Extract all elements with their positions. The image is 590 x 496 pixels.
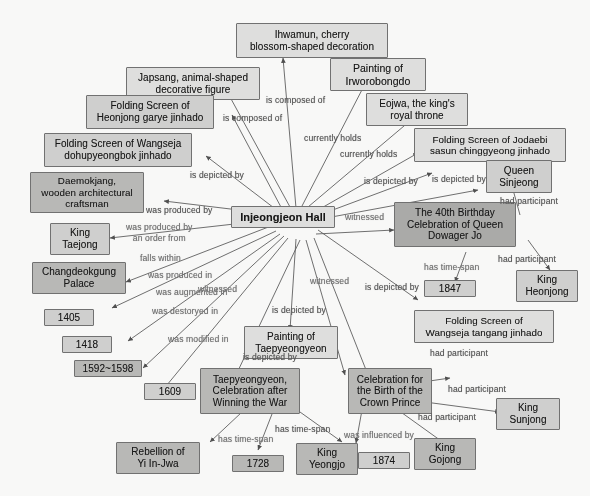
node-taepyeongyeon-celebration[interactable]: Taepyeongyeon,Celebration afterWinning t… (200, 368, 300, 414)
edge-label-witnessed-1: witnessed (198, 284, 237, 294)
node-king-yeongjo[interactable]: KingYeongjo (296, 443, 358, 475)
edge-label-has-time-span-1: has time-span (424, 262, 479, 272)
node-label: Daemokjang,wooden architecturalcraftsman (35, 175, 139, 209)
node-label: 1609 (149, 386, 191, 398)
edge-label-currently-holds-2: currently holds (340, 149, 397, 159)
edge-label-is-depicted-by-5: is depicted by (365, 282, 419, 292)
node-year-1405[interactable]: 1405 (44, 309, 94, 326)
node-label: KingSunjong (501, 402, 555, 425)
node-year-1874[interactable]: 1874 (358, 452, 410, 469)
node-rebellion-yi-in-jwa[interactable]: Rebellion ofYi In-Jwa (116, 442, 200, 474)
node-label: QueenSinjeong (491, 165, 547, 188)
edge-label-had-participant-2: had participant (498, 254, 556, 264)
node-label: Folding Screen ofWangseja tangang jinhad… (419, 315, 549, 338)
edge-label-is-depicted-by-2: is depicted by (364, 176, 418, 186)
node-year-1418[interactable]: 1418 (62, 336, 112, 353)
edge-label-currently-holds-1: currently holds (304, 133, 361, 143)
node-label: Rebellion ofYi In-Jwa (121, 446, 195, 469)
node-label: 1592~1598 (79, 363, 137, 375)
node-wangseja-dohupyeongbok-jinhado[interactable]: Folding Screen of Wangsejadohupyeongbok … (44, 133, 192, 167)
edge-label-had-participant-3: had participant (448, 384, 506, 394)
node-ihwamun[interactable]: Ihwamun, cherryblossom-shaped decoration (236, 23, 388, 58)
node-label: Ihwamun, cherryblossom-shaped decoration (241, 29, 383, 52)
node-daemokjang[interactable]: Daemokjang,wooden architecturalcraftsman (30, 172, 144, 213)
node-40th-birthday-celebration[interactable]: The 40th BirthdayCelebration of QueenDow… (394, 202, 516, 247)
node-label: The 40th BirthdayCelebration of QueenDow… (399, 207, 511, 242)
node-label: Painting ofTaepyeongyeon (249, 331, 333, 354)
edge-label-has-time-span-3: was influenced by (344, 430, 414, 440)
node-eojwa[interactable]: Eojwa, the king'sroyal throne (366, 93, 468, 126)
node-king-sunjong[interactable]: KingSunjong (496, 398, 560, 430)
node-label: Eojwa, the king'sroyal throne (371, 98, 463, 121)
node-king-gojong[interactable]: KingGojong (414, 438, 476, 470)
node-jodaebi-jinhado[interactable]: Folding Screen of Jodaebisasun chinggyeo… (414, 128, 566, 162)
edge-label-had-participant-1: had participant (500, 196, 558, 206)
node-painting-irworobongdo[interactable]: Painting ofIrworobongdo (330, 58, 426, 91)
edge-label-was-produced-by-order-from: was produced byan order from (126, 222, 192, 243)
node-label: Painting ofIrworobongdo (335, 62, 421, 86)
node-year-1609[interactable]: 1609 (144, 383, 196, 400)
edge-label-is-composed-of-1: is composed of (266, 95, 325, 105)
node-label: 1418 (67, 339, 107, 351)
edge-label-witnessed-2: witnessed (310, 276, 349, 286)
node-label: ChangdeokgungPalace (37, 266, 121, 289)
node-wangseja-tangang-jinhado[interactable]: Folding Screen ofWangseja tangang jinhad… (414, 310, 554, 343)
node-crown-prince-celebration[interactable]: Celebration forthe Birth of theCrown Pri… (348, 368, 432, 414)
node-year-1847[interactable]: 1847 (424, 280, 476, 297)
edge-label-is-depicted-by-1: is depicted by (190, 170, 244, 180)
knowledge-graph-canvas: Ihwamun, cherryblossom-shaped decoration… (0, 0, 590, 496)
node-label: KingGojong (419, 442, 471, 465)
node-label: KingYeongjo (301, 447, 353, 470)
node-label: 1405 (49, 312, 89, 324)
edge-label-falls-within: falls within (140, 253, 181, 263)
node-label: Injeongjeon Hall (236, 211, 330, 224)
edge-label-had-participant-5: has time-span (275, 424, 330, 434)
node-label: KingHeonjong (521, 274, 573, 297)
node-king-taejong[interactable]: KingTaejong (50, 223, 110, 255)
node-queen-sinjeong[interactable]: QueenSinjeong (486, 160, 552, 193)
node-label: Folding Screen of Wangsejadohupyeongbok … (49, 138, 187, 161)
edge-label-witnessed-3: witnessed (345, 212, 384, 222)
node-label: Japsang, animal-shapeddecorative figure (131, 72, 255, 95)
node-label: 1847 (429, 283, 471, 295)
edge-label-is-composed-of-2: is composed of (223, 113, 282, 123)
edge-label-was-modified-in: was modified in (168, 334, 229, 344)
node-label: KingTaejong (55, 227, 105, 250)
node-label: Folding Screen ofHeonjong garye jinhado (91, 100, 209, 123)
node-label: 1874 (363, 455, 405, 467)
node-changdeokgung-palace[interactable]: ChangdeokgungPalace (32, 262, 126, 294)
node-label: Folding Screen of Jodaebisasun chinggyeo… (419, 134, 561, 157)
node-king-heonjong[interactable]: KingHeonjong (516, 270, 578, 302)
node-heonjong-garye-jinhado[interactable]: Folding Screen ofHeonjong garye jinhado (86, 95, 214, 129)
node-year-1592-1598[interactable]: 1592~1598 (74, 360, 142, 377)
edge-label-is-depicted-by-3: is depicted by (432, 174, 486, 184)
edge-label-was-destroyed-in: was destoryed in (152, 306, 218, 316)
edge-label-is-depicted-by-7: had participant (430, 348, 488, 358)
edge-label-had-participant-4: had participant (418, 412, 476, 422)
edge-label-has-time-span-2: has time-span (218, 434, 273, 444)
node-label: Celebration forthe Birth of theCrown Pri… (353, 374, 427, 409)
node-label: 1728 (237, 458, 279, 470)
node-label: Taepyeongyeon,Celebration afterWinning t… (205, 374, 295, 409)
node-year-1728[interactable]: 1728 (232, 455, 284, 472)
edge-label-was-produced-in: was produced in (148, 270, 212, 280)
node-injeongjeon-hall[interactable]: Injeongjeon Hall (231, 206, 335, 228)
edge-label-is-depicted-by-4: is depicted by (272, 305, 326, 315)
edge-label-is-depicted-by-6: is depicted by (243, 352, 297, 362)
edge-label-was-produced-by: was produced by (146, 205, 212, 215)
